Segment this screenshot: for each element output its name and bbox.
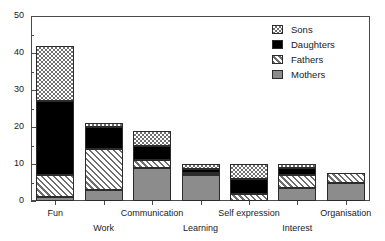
legend-swatch-daughters <box>272 40 283 49</box>
y-tick-minor <box>31 35 34 36</box>
bar-group[interactable] <box>36 16 74 201</box>
x-axis: FunWorkCommunicationLearningSelf express… <box>0 201 385 241</box>
y-tick-major <box>31 201 36 202</box>
x-axis-label: Learning <box>183 223 218 233</box>
y-tick-label: 30 <box>14 85 24 94</box>
bar-segment-fathers[interactable] <box>36 175 74 197</box>
legend-row[interactable]: Mothers <box>272 67 363 82</box>
y-tick-label: 10 <box>14 159 24 168</box>
bar-segment-sons[interactable] <box>85 123 123 127</box>
bar-group[interactable] <box>182 16 220 201</box>
x-axis-label: Self expression <box>218 208 280 218</box>
legend-swatch-sons <box>272 25 283 34</box>
stacked-bar-chart: 01020304050 FunWorkCommunicationLearning… <box>0 0 385 241</box>
x-axis-label: Fun <box>47 208 63 218</box>
bar-segment-daughters[interactable] <box>182 169 220 173</box>
x-tick <box>104 201 105 205</box>
bar-segment-daughters[interactable] <box>85 127 123 149</box>
bar-segment-fathers[interactable] <box>278 175 316 188</box>
legend-label: Sons <box>291 25 313 35</box>
y-tick-minor <box>31 146 34 147</box>
bar-segment-mothers[interactable] <box>327 183 365 202</box>
x-tick <box>249 201 250 205</box>
bar-segment-mothers[interactable] <box>85 190 123 201</box>
x-tick <box>201 201 202 205</box>
y-tick-major <box>31 164 36 165</box>
chart-legend: SonsDaughtersFathersMothers <box>268 19 365 85</box>
x-tick <box>152 201 153 205</box>
x-tick <box>346 201 347 205</box>
x-axis-label: Communication <box>121 208 184 218</box>
bar-segment-fathers[interactable] <box>327 173 365 182</box>
bar-segment-sons[interactable] <box>230 164 268 179</box>
y-tick-label: 40 <box>14 48 24 57</box>
legend-row[interactable]: Fathers <box>272 52 363 67</box>
bar-segment-fathers[interactable] <box>85 149 123 190</box>
y-tick-minor <box>31 109 34 110</box>
legend-label: Fathers <box>291 55 323 65</box>
bar-segment-sons[interactable] <box>278 164 316 168</box>
x-tick <box>55 201 56 205</box>
bar-segment-daughters[interactable] <box>230 179 268 194</box>
bar-group[interactable] <box>230 16 268 201</box>
bar-segment-daughters[interactable] <box>36 101 74 175</box>
legend-label: Daughters <box>291 40 335 50</box>
x-tick <box>297 201 298 205</box>
bar-segment-sons[interactable] <box>182 164 220 169</box>
bar-segment-sons[interactable] <box>133 131 171 146</box>
bar-segment-fathers[interactable] <box>230 194 268 201</box>
bar-segment-sons[interactable] <box>36 46 74 102</box>
x-axis-label: Organisation <box>320 208 371 218</box>
legend-row[interactable]: Sons <box>272 22 363 37</box>
legend-swatch-mothers <box>272 70 283 79</box>
bar-group[interactable] <box>85 16 123 201</box>
bar-segment-fathers[interactable] <box>133 160 171 167</box>
y-tick-major <box>31 127 36 128</box>
y-tick-major <box>31 16 36 17</box>
bar-segment-mothers[interactable] <box>182 175 220 201</box>
legend-swatch-fathers <box>272 55 283 64</box>
bar-segment-mothers[interactable] <box>133 168 171 201</box>
y-tick-label: 50 <box>14 11 24 20</box>
bar-segment-daughters[interactable] <box>278 168 316 175</box>
y-tick-major <box>31 90 36 91</box>
bar-segment-mothers[interactable] <box>278 188 316 201</box>
y-tick-label: 20 <box>14 122 24 131</box>
legend-row[interactable]: Daughters <box>272 37 363 52</box>
y-tick-minor <box>31 183 34 184</box>
y-tick-major <box>31 53 36 54</box>
bar-segment-daughters[interactable] <box>133 146 171 161</box>
bar-segment-fathers[interactable] <box>182 173 220 175</box>
x-axis-label: Work <box>93 223 114 233</box>
bar-group[interactable] <box>133 16 171 201</box>
legend-label: Mothers <box>291 70 325 80</box>
y-tick-minor <box>31 72 34 73</box>
x-axis-label: Interest <box>282 223 312 233</box>
